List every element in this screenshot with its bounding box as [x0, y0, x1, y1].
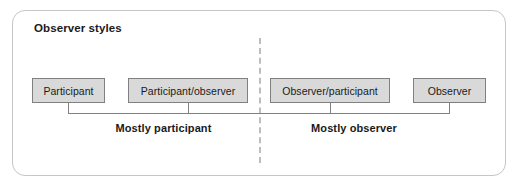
style-box-label: Participant [43, 85, 93, 97]
style-box-label: Observer [428, 85, 472, 97]
style-box-participant: Participant [32, 78, 105, 103]
bracket-caption-mostly-participant: Mostly participant [68, 122, 259, 134]
style-box-label: Participant/observer [141, 85, 235, 97]
bracket-rail-right [259, 113, 449, 114]
observer-styles-diagram: Observer styles Participant Participant/… [0, 0, 520, 189]
connector-stem-observer [449, 103, 450, 114]
style-box-observer-participant: Observer/participant [270, 78, 390, 103]
page-title: Observer styles [34, 22, 122, 34]
bracket-caption-mostly-observer: Mostly observer [259, 122, 449, 134]
style-box-observer: Observer [413, 78, 486, 103]
style-box-label: Observer/participant [282, 85, 378, 97]
dashed-divider [259, 38, 261, 163]
style-box-participant-observer: Participant/observer [128, 78, 248, 103]
bracket-rail-left [68, 113, 259, 114]
